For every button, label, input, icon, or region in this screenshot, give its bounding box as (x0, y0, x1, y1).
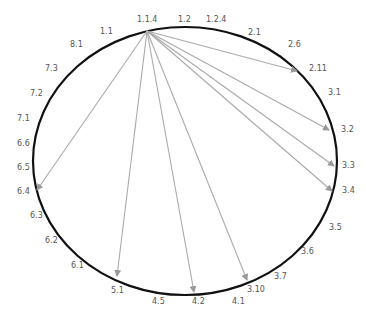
node-label-6-6: 6.6 (17, 139, 30, 148)
node-label-6-4: 6.4 (17, 187, 30, 196)
node-label-5-1: 5.1 (111, 286, 124, 295)
node-label-3-7: 3.7 (274, 272, 287, 281)
node-label-7-2: 7.2 (30, 89, 43, 98)
edge-arrow-3-10 (147, 31, 247, 280)
node-label-7-3: 7.3 (45, 64, 58, 73)
node-label-6-5: 6.5 (17, 163, 30, 172)
node-label-6-2: 6.2 (45, 236, 58, 245)
node-label-6-1: 6.1 (71, 261, 84, 270)
node-label-3-2: 3.2 (341, 125, 354, 134)
node-label-3-4: 3.4 (342, 186, 355, 195)
node-label-4-2: 4.2 (192, 297, 205, 306)
node-label-3-5: 3.5 (329, 223, 342, 232)
node-label-4-1: 4.1 (232, 297, 245, 306)
edge-arrow-3-4 (147, 31, 332, 191)
node-label-8-1: 8.1 (70, 40, 83, 49)
edge-arrow-3-2 (147, 31, 329, 130)
node-label-6-3: 6.3 (30, 211, 43, 220)
node-label-1-2: 1.2 (178, 15, 191, 24)
node-label-2-1: 2.1 (248, 28, 261, 37)
call-graph-diagram: 1.11.1.41.21.2.42.12.62.113.13.23.33.43.… (0, 0, 366, 319)
node-label-3-1: 3.1 (328, 88, 341, 97)
node-ring (33, 27, 337, 295)
edge-arrow-3-3 (147, 31, 334, 166)
node-label-4-5: 4.5 (152, 297, 165, 306)
edge-group (37, 31, 334, 292)
node-label-3-10: 3.10 (247, 285, 265, 294)
node-label-1-1: 1.1 (100, 27, 113, 36)
node-label-3-6: 3.6 (301, 247, 314, 256)
node-label-2-11: 2.11 (309, 64, 327, 73)
node-label-3-3: 3.3 (342, 161, 355, 170)
edge-arrow-4-2 (147, 31, 194, 292)
node-label-1-2-4: 1.2.4 (206, 15, 226, 24)
node-label-7-1: 7.1 (17, 114, 30, 123)
node-label-2-6: 2.6 (288, 40, 301, 49)
node-label-1-1-4: 1.1.4 (137, 15, 157, 24)
